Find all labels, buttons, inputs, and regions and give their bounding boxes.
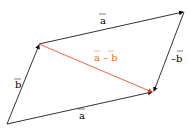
svg-text:a – b: a – b xyxy=(94,52,118,63)
label-a-top: a xyxy=(99,14,106,26)
svg-text:–b: –b xyxy=(171,53,182,64)
vector-diagram: a a b –b a – b xyxy=(0,0,194,129)
svg-text:b: b xyxy=(15,79,21,90)
svg-text:a: a xyxy=(79,110,85,121)
label-neg-b: –b xyxy=(171,51,183,64)
svg-text:a: a xyxy=(100,15,106,26)
vector-b xyxy=(7,45,39,124)
vector-neg-b xyxy=(154,12,184,91)
label-a-bottom: a xyxy=(78,109,85,121)
vector-a-top xyxy=(39,12,183,44)
label-a-minus-b: a – b xyxy=(94,51,118,63)
label-b: b xyxy=(14,79,21,90)
